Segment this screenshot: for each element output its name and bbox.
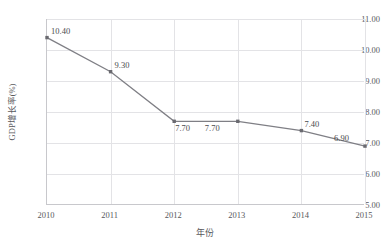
data-point-label: 7.70 <box>205 124 220 133</box>
plot-area <box>46 19 364 205</box>
data-point-marker <box>300 129 303 132</box>
data-point-marker <box>109 70 112 73</box>
data-point-label: 10.40 <box>51 27 70 36</box>
data-point-marker <box>363 144 366 147</box>
x-axis-tick-label: 2015 <box>342 211 385 220</box>
x-axis-tick-label: 2013 <box>215 211 259 220</box>
x-axis-tick-label: 2011 <box>88 211 132 220</box>
x-axis-tick-label: 2014 <box>278 211 322 220</box>
data-point-marker <box>45 36 48 39</box>
y-axis-title-container: GDP增长率(%) <box>4 0 18 224</box>
data-point-label: 7.40 <box>304 120 319 129</box>
data-point-label: 9.30 <box>115 61 130 70</box>
x-axis-tick-label: 2010 <box>24 211 68 220</box>
data-point-label: 7.70 <box>175 124 190 133</box>
series-line-gdp-growth <box>47 19 365 205</box>
gridline-vertical <box>365 19 366 204</box>
data-point-marker <box>236 120 239 123</box>
data-point-label: 6.90 <box>334 134 349 143</box>
y-axis-title: GDP增长率(%) <box>5 84 17 141</box>
x-axis-title: 年份 <box>46 226 364 239</box>
x-axis-tick-label: 2012 <box>151 211 195 220</box>
